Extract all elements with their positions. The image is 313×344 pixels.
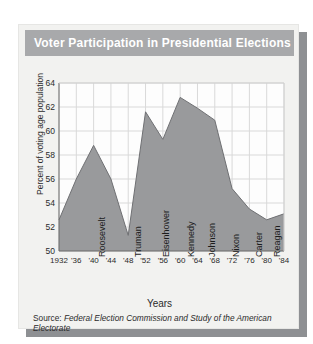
president-label: Eisenhower bbox=[161, 210, 171, 257]
y-tick-label: 62 bbox=[33, 102, 55, 112]
source-note: Source: Federal Election Commission and … bbox=[33, 313, 283, 334]
president-label: Carter bbox=[254, 232, 264, 257]
president-label: Reagan bbox=[272, 225, 282, 257]
president-label: Roosevelt bbox=[97, 217, 107, 257]
x-axis-title: Years bbox=[19, 298, 300, 309]
president-label: Nixon bbox=[231, 234, 241, 257]
x-tick-label: '84 bbox=[271, 256, 297, 265]
president-label: Johnson bbox=[207, 223, 217, 257]
source-text: Federal Election Commission and Study of… bbox=[33, 313, 272, 333]
area-chart-plot bbox=[19, 25, 300, 330]
y-tick-label: 50 bbox=[33, 246, 55, 256]
plot-area-wrapper: Percent of voting age population 6462605… bbox=[19, 25, 300, 330]
chart-figure: Voter Participation in Presidential Elec… bbox=[0, 0, 313, 344]
president-label: Kennedy bbox=[186, 221, 196, 257]
y-tick-label: 58 bbox=[33, 150, 55, 160]
y-tick-label: 54 bbox=[33, 198, 55, 208]
y-tick-label: 60 bbox=[33, 126, 55, 136]
chart-card: Voter Participation in Presidential Elec… bbox=[18, 24, 299, 329]
president-label: Truman bbox=[133, 226, 143, 257]
y-tick-label: 52 bbox=[33, 222, 55, 232]
source-prefix: Source: bbox=[33, 313, 62, 323]
y-tick-label: 56 bbox=[33, 174, 55, 184]
y-tick-label: 64 bbox=[33, 78, 55, 88]
